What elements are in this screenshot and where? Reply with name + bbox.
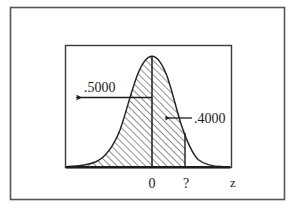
area-right-label: .4000 [194, 111, 226, 126]
area-left-label: .5000 [84, 80, 116, 95]
figure-canvas: .5000 .4000 0 ? z [0, 0, 296, 217]
axis-tick-unknown: ? [183, 176, 189, 191]
normal-distribution-figure: .5000 .4000 0 ? z [0, 0, 296, 217]
axis-tick-zero: 0 [149, 176, 156, 191]
axis-label-z: z [230, 175, 236, 190]
